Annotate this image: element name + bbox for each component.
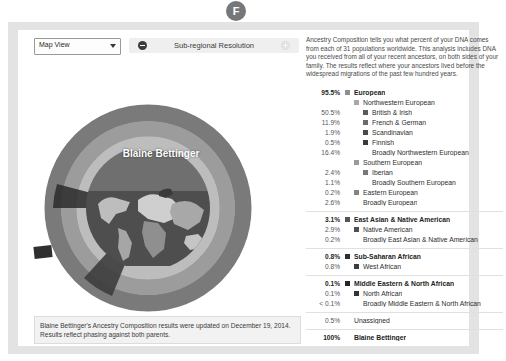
view-select-value: Map View [39, 41, 70, 48]
resolution-control[interactable]: Sub-regional Resolution [129, 38, 299, 53]
legend-color-swatch [354, 227, 359, 232]
legend-row[interactable]: 0.1%North African [306, 289, 503, 299]
legend-label: Eastern European [363, 189, 418, 196]
legend-color-swatch [363, 150, 368, 155]
legend-row[interactable]: 50.5%British & Irish [306, 108, 503, 118]
legend-row[interactable]: 1.1%Broadly Southern European [306, 178, 503, 188]
legend-row[interactable]: 100%Blaine Bettinger [306, 333, 503, 343]
legend-row[interactable]: 0.8%West African [306, 262, 503, 272]
legend-label: East Asian & Native American [354, 216, 450, 223]
legend-label: Broadly Middle Eastern & North African [363, 300, 481, 307]
legend-color-swatch [345, 217, 350, 222]
legend-percent: 0.8% [306, 253, 345, 260]
legend-percent: 11.9% [306, 119, 345, 126]
badge-bar: F [0, 0, 487, 20]
legend-label: Unassigned [354, 317, 390, 324]
update-caption-text: Blaine Bettinger's Ancestry Composition … [40, 321, 295, 339]
legend-label: French & German [372, 119, 426, 126]
legend-color-swatch [363, 140, 368, 145]
legend-label: Scandinavian [372, 129, 413, 136]
legend-row[interactable]: 0.5%Unassigned [306, 316, 503, 326]
legend-percent: 0.1% [306, 290, 345, 297]
legend-row[interactable]: 0.1%Middle Eastern & North African [306, 279, 503, 289]
legend-percent: 0.2% [306, 236, 345, 243]
world-map [86, 151, 210, 266]
legend-percent: 1.1% [306, 179, 345, 186]
legend-label: Southern European [363, 159, 422, 166]
legend-row[interactable]: 2.9%Native American [306, 225, 503, 235]
legend-label: Iberian [372, 169, 393, 176]
legend-color-swatch [345, 281, 350, 286]
legend-label: Broadly East Asian & Native American [363, 236, 478, 243]
legend-row[interactable]: 0.8%Sub-Saharan African [306, 252, 503, 262]
legend-percent: 0.1% [306, 280, 345, 287]
legend-color-swatch [345, 90, 350, 95]
legend-color-swatch [363, 110, 368, 115]
legend-row[interactable]: 1.9%Scandinavian [306, 128, 503, 138]
legend-row[interactable]: 0.2%Eastern European [306, 188, 503, 198]
legend-label: Sub-Saharan African [354, 253, 421, 260]
legend-color-swatch [354, 291, 359, 296]
legend-color-swatch [354, 264, 359, 269]
ancestry-card: Map View Sub-regional Resolution [18, 30, 469, 346]
legend-row[interactable]: 0.2%Broadly East Asian & Native American [306, 235, 503, 245]
chevron-down-icon [110, 44, 116, 48]
legend-group: 0.5%Unassigned [306, 312, 503, 329]
legend-color-swatch [354, 100, 359, 105]
legend-row[interactable]: 3.1%East Asian & Native American [306, 215, 503, 225]
legend-row[interactable]: 95.5%European [306, 88, 503, 98]
legend-row[interactable]: 2.4%Iberian [306, 168, 503, 178]
ancestry-donut-chart[interactable]: Blaine Bettinger [26, 88, 296, 328]
resolution-label: Sub-regional Resolution [129, 41, 299, 50]
ancestry-legend: 95.5%EuropeanNorthwestern European50.5%B… [306, 85, 503, 346]
ancestry-description: Ancestry Composition tells you what perc… [306, 36, 503, 79]
legend-percent: 0.2% [306, 189, 345, 196]
legend-label: Broadly Northwestern European [372, 149, 469, 156]
legend-row[interactable]: < 0.1%Broadly Middle Eastern & North Afr… [306, 299, 503, 309]
legend-row[interactable]: Southern European [306, 158, 503, 168]
legend-color-swatch [354, 237, 359, 242]
legend-label: Finnish [372, 139, 394, 146]
legend-label: European [354, 89, 385, 96]
right-column: Ancestry Composition tells you what perc… [306, 36, 506, 346]
legend-row[interactable]: Northwestern European [306, 98, 503, 108]
legend-label: Northwestern European [363, 99, 435, 106]
legend-color-swatch [345, 254, 350, 259]
legend-percent: 0.5% [306, 139, 345, 146]
update-caption: Blaine Bettinger's Ancestry Composition … [34, 316, 301, 344]
donut-svg [26, 88, 296, 328]
legend-percent: 2.9% [306, 226, 345, 233]
legend-percent: 50.5% [306, 109, 345, 116]
legend-color-swatch [363, 170, 368, 175]
legend-label: Native American [363, 226, 413, 233]
legend-percent: 0.5% [306, 317, 345, 324]
legend-percent: 100% [306, 334, 345, 341]
legend-color-swatch [354, 200, 359, 205]
legend-color-swatch [354, 301, 359, 306]
section-badge: F [226, 1, 246, 21]
legend-percent: 1.9% [306, 129, 345, 136]
plus-circle-icon[interactable] [281, 41, 290, 50]
view-select[interactable]: Map View [34, 38, 121, 55]
legend-group: 3.1%East Asian & Native American2.9%Nati… [306, 211, 503, 248]
ancestry-panel: Map View Sub-regional Resolution [8, 22, 479, 354]
legend-percent: 16.4% [306, 149, 345, 156]
legend-label: Broadly European [363, 199, 417, 206]
legend-label: Blaine Bettinger [354, 334, 406, 341]
legend-percent: 2.6% [306, 199, 345, 206]
legend-row[interactable]: 2.6%Broadly European [306, 198, 503, 208]
legend-color-swatch [354, 160, 359, 165]
legend-percent: < 0.1% [306, 300, 345, 307]
legend-label: West African [363, 263, 401, 270]
legend-label: North African [363, 290, 402, 297]
legend-row[interactable]: 11.9%French & German [306, 118, 503, 128]
chart-toolbar: Map View Sub-regional Resolution [34, 38, 294, 55]
legend-percent: 3.1% [306, 216, 345, 223]
legend-percent: 2.4% [306, 169, 345, 176]
legend-label: Middle Eastern & North African [354, 280, 454, 287]
legend-color-swatch [354, 190, 359, 195]
legend-group: 0.8%Sub-Saharan African0.8%West African [306, 248, 503, 275]
legend-row[interactable]: 16.4%Broadly Northwestern European [306, 148, 503, 158]
legend-group: 100%Blaine Bettinger [306, 329, 503, 346]
legend-row[interactable]: 0.5%Finnish [306, 138, 503, 148]
